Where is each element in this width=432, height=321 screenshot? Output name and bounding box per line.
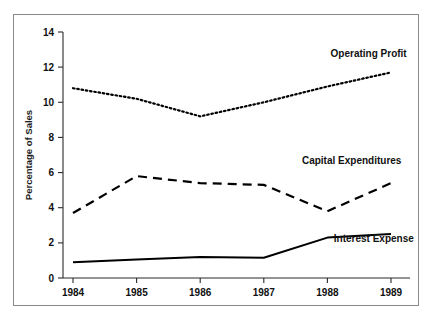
series-label-interest-expense: Interest Expense bbox=[334, 233, 414, 244]
series-label-capital-expenditures: Capital Expenditures bbox=[302, 155, 402, 166]
y-axis-title: Percentage of Sales bbox=[23, 110, 34, 200]
y-tick-label: 6 bbox=[48, 167, 54, 178]
y-tick-label: 12 bbox=[43, 62, 55, 73]
y-tick-label: 2 bbox=[48, 237, 54, 248]
x-tick-labels: 1984 1985 1986 1987 1988 1989 bbox=[62, 287, 403, 298]
series-label-operating-profit: Operating Profit bbox=[331, 48, 408, 59]
chart-figure: 14 12 10 8 6 4 2 0 1984 1985 1986 1987 1… bbox=[0, 0, 432, 321]
y-tick-label: 0 bbox=[48, 273, 54, 284]
x-tick-label: 1989 bbox=[380, 287, 403, 298]
line-chart-plot: 14 12 10 8 6 4 2 0 1984 1985 1986 1987 1… bbox=[0, 0, 432, 321]
y-tick-label: 14 bbox=[43, 27, 55, 38]
y-tick-label: 8 bbox=[48, 132, 54, 143]
y-tick-marks bbox=[58, 32, 63, 278]
x-tick-label: 1984 bbox=[62, 287, 85, 298]
series-line-operating-profit bbox=[73, 72, 391, 116]
x-tick-label: 1987 bbox=[253, 287, 276, 298]
x-tick-label: 1985 bbox=[125, 287, 148, 298]
y-tick-labels: 14 12 10 8 6 4 2 0 bbox=[43, 27, 55, 284]
series-line-capital-expenditures bbox=[73, 176, 391, 213]
y-tick-label: 10 bbox=[43, 97, 55, 108]
y-tick-label: 4 bbox=[48, 202, 54, 213]
x-tick-marks bbox=[73, 278, 391, 283]
x-tick-label: 1988 bbox=[316, 287, 339, 298]
x-tick-label: 1986 bbox=[189, 287, 212, 298]
